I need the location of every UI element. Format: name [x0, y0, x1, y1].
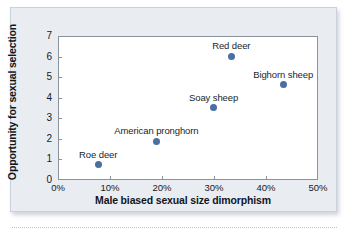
x-tick-mark [110, 176, 111, 180]
x-tick-label: 50% [298, 183, 338, 193]
y-tick-label: 3 [36, 113, 52, 123]
footer-divider [12, 227, 337, 229]
y-tick-mark [58, 118, 62, 119]
x-tick-mark [162, 176, 163, 180]
y-tick-label: 1 [36, 154, 52, 164]
data-point [280, 81, 287, 88]
data-point-label: Soay sheep [189, 92, 238, 103]
y-tick-mark [58, 139, 62, 140]
x-tick-label: 20% [142, 183, 182, 193]
x-tick-label: 40% [246, 183, 286, 193]
y-tick-label: 2 [36, 134, 52, 144]
x-tick-label: 10% [90, 183, 130, 193]
data-point [228, 53, 235, 60]
y-tick-mark [58, 57, 62, 58]
x-tick-label: 30% [194, 183, 234, 193]
y-axis-title: Opportunity for sexual selection [6, 17, 18, 187]
data-point [153, 138, 160, 145]
data-point-label: Red deer [212, 40, 250, 51]
data-point [210, 104, 217, 111]
y-tick-label: 4 [36, 93, 52, 103]
data-point-label: American pronghorn [114, 125, 198, 136]
y-tick-mark [58, 77, 62, 78]
y-tick-mark [58, 98, 62, 99]
data-point-label: Bighorn sheep [253, 69, 313, 80]
figure-container: Opportunity for sexual selection Male bi… [0, 0, 349, 236]
x-tick-mark [214, 176, 215, 180]
data-point [95, 161, 102, 168]
y-tick-label: 5 [36, 72, 52, 82]
x-tick-mark [266, 176, 267, 180]
y-tick-label: 6 [36, 52, 52, 62]
y-tick-label: 7 [36, 31, 52, 41]
x-tick-label: 0% [38, 183, 78, 193]
y-tick-mark [58, 159, 62, 160]
data-point-label: Roe deer [79, 149, 117, 160]
x-axis-title: Male biased sexual size dimorphism [38, 194, 328, 206]
